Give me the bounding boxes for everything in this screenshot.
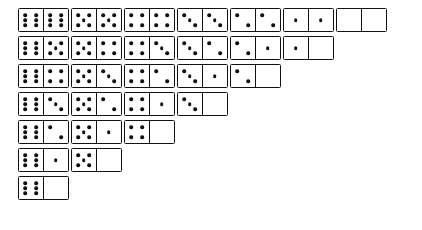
pip: [101, 97, 105, 101]
domino-tile[interactable]: [18, 148, 69, 172]
pip: [34, 158, 38, 162]
pip: [193, 107, 197, 111]
domino-half-right: [203, 37, 228, 59]
pip: [24, 97, 28, 101]
domino-half-right: [97, 65, 122, 87]
pip: [34, 102, 38, 106]
pip: [154, 69, 158, 73]
pip: [87, 13, 91, 17]
pip: [130, 69, 134, 73]
pip: [77, 125, 81, 129]
pip: [87, 23, 91, 27]
pip: [140, 107, 144, 111]
domino-half-left: [19, 177, 44, 199]
pip: [113, 51, 117, 55]
domino-half-right: [150, 37, 175, 59]
pip: [24, 107, 28, 111]
pip: [166, 79, 170, 83]
domino-half-left: [284, 37, 309, 59]
pip: [54, 46, 58, 50]
domino-half-right: [44, 149, 69, 171]
domino-tile[interactable]: [177, 36, 228, 60]
domino-tile[interactable]: [230, 36, 281, 60]
pip: [130, 79, 134, 83]
domino-tile[interactable]: [71, 36, 122, 60]
domino-tile[interactable]: [71, 120, 122, 144]
domino-tile[interactable]: [124, 64, 175, 88]
pip: [236, 41, 240, 45]
domino-tile[interactable]: [18, 8, 69, 32]
pip: [130, 125, 134, 129]
pip: [48, 125, 52, 129]
pip: [140, 125, 144, 129]
pip: [82, 102, 86, 106]
domino-tile[interactable]: [124, 120, 175, 144]
pip: [183, 97, 187, 101]
domino-half-left: [19, 93, 44, 115]
domino-half-left: [19, 37, 44, 59]
pip: [154, 23, 158, 27]
domino-tile[interactable]: [18, 120, 69, 144]
domino-half-left: [231, 37, 256, 59]
domino-tile[interactable]: [18, 176, 69, 200]
domino-half-left: [178, 37, 203, 59]
domino-tile[interactable]: [124, 8, 175, 32]
domino-tile[interactable]: [177, 64, 228, 88]
pip: [24, 13, 28, 17]
domino-tile[interactable]: [124, 36, 175, 60]
domino-half-right: [97, 121, 122, 143]
pip: [34, 163, 38, 167]
domino-tile[interactable]: [71, 92, 122, 116]
pip: [266, 46, 270, 50]
pip: [160, 46, 164, 50]
domino-tile[interactable]: [18, 92, 69, 116]
pip: [60, 79, 64, 83]
domino-half-right: [150, 121, 175, 143]
pip: [113, 107, 117, 111]
pip: [24, 79, 28, 83]
pip: [193, 79, 197, 83]
domino-tile[interactable]: [124, 92, 175, 116]
pip: [54, 102, 58, 106]
pip: [60, 23, 64, 27]
domino-tile[interactable]: [71, 148, 122, 172]
pip: [140, 51, 144, 55]
pip: [130, 97, 134, 101]
pip: [207, 13, 211, 17]
pip: [107, 74, 111, 78]
domino-half-right: [256, 65, 281, 87]
pip: [246, 51, 250, 55]
domino-half-right: [44, 177, 69, 199]
domino-tile[interactable]: [283, 8, 334, 32]
domino-half-left: [19, 9, 44, 31]
domino-tile[interactable]: [18, 36, 69, 60]
pip: [87, 69, 91, 73]
domino-tile[interactable]: [177, 8, 228, 32]
pip: [87, 107, 91, 111]
domino-tile[interactable]: [71, 8, 122, 32]
domino-tile[interactable]: [177, 92, 228, 116]
pip: [24, 51, 28, 55]
pip: [34, 181, 38, 185]
pip: [60, 69, 64, 73]
pip: [107, 130, 111, 134]
domino-half-right: [362, 9, 387, 31]
domino-tile[interactable]: [18, 64, 69, 88]
domino-tile[interactable]: [336, 8, 387, 32]
pip: [34, 74, 38, 78]
pip: [82, 46, 86, 50]
domino-half-right: [150, 65, 175, 87]
pip: [140, 135, 144, 139]
pip: [140, 69, 144, 73]
domino-tile[interactable]: [283, 36, 334, 60]
domino-tile[interactable]: [230, 8, 281, 32]
pip: [188, 18, 192, 22]
domino-tile[interactable]: [230, 64, 281, 88]
pip: [82, 18, 86, 22]
domino-tile[interactable]: [71, 64, 122, 88]
pip: [130, 13, 134, 17]
domino-half-right: [309, 9, 334, 31]
pip: [24, 18, 28, 22]
pip: [113, 13, 117, 17]
pip: [77, 13, 81, 17]
